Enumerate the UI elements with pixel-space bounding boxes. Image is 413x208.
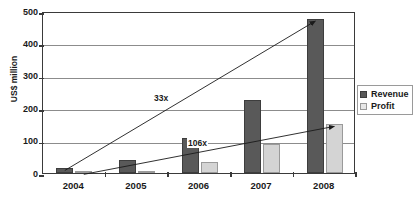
y-axis-tick-label: 300 xyxy=(8,72,38,81)
y-axis-tick-label: 500 xyxy=(8,8,38,17)
x-axis-tick-mark xyxy=(355,172,357,177)
y-axis-tick-label: 100 xyxy=(8,137,38,146)
x-axis-tick-mark xyxy=(293,172,295,177)
chart-legend: RevenueProfit xyxy=(357,85,413,115)
y-axis-tick-label: 0 xyxy=(8,170,38,179)
x-axis-tick-mark xyxy=(105,172,107,177)
bar-revenue-2005 xyxy=(119,160,136,173)
legend-item-label: Profit xyxy=(371,101,395,111)
annotation-label-106x: 106x xyxy=(187,138,208,148)
bar-profit-2007 xyxy=(263,144,280,173)
bar-profit-2006 xyxy=(201,162,218,173)
x-axis-tick-mark xyxy=(230,172,232,177)
y-axis-tick-mark xyxy=(39,143,44,145)
x-axis-tick-label: 2005 xyxy=(105,180,167,191)
x-axis-tick-label: 2007 xyxy=(230,180,292,191)
y-axis-tick-label: 400 xyxy=(8,40,38,49)
bar-profit-2005 xyxy=(138,171,155,173)
x-axis-tick-label: 2004 xyxy=(42,180,104,191)
bar-revenue-2004 xyxy=(56,168,73,173)
x-axis-tick-mark xyxy=(167,172,169,177)
bar-profit-2004 xyxy=(75,171,92,173)
revenue-profit-bar-chart: US$ million 0100200300400500 20042005200… xyxy=(0,0,413,208)
y-axis-tick-mark xyxy=(39,110,44,112)
legend-item-profit[interactable]: Profit xyxy=(360,100,409,112)
legend-item-revenue[interactable]: Revenue xyxy=(360,88,409,100)
x-axis-tick-label: 2008 xyxy=(293,180,355,191)
plot-area: 33x106x xyxy=(42,12,355,174)
bar-revenue-2008 xyxy=(307,19,324,173)
y-axis-tick-labels: 0100200300400500 xyxy=(6,0,38,208)
bar-profit-2008 xyxy=(326,124,343,173)
x-axis-tick-label: 2006 xyxy=(168,180,230,191)
legend-item-label: Revenue xyxy=(371,89,409,99)
y-axis-tick-mark xyxy=(39,78,44,80)
y-axis-tick-mark xyxy=(39,13,44,15)
annotation-label-33x: 33x xyxy=(153,93,169,103)
y-axis-tick-mark xyxy=(39,175,44,177)
legend-swatch-icon xyxy=(360,91,367,98)
legend-swatch-icon xyxy=(360,103,367,110)
y-axis-tick-label: 200 xyxy=(8,105,38,114)
bar-revenue-2007 xyxy=(244,100,261,173)
y-axis-tick-mark xyxy=(39,45,44,47)
